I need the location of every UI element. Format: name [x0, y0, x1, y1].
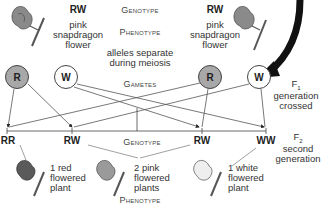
gamete-w-left: W: [54, 65, 78, 89]
white-flower-icon: [193, 158, 225, 198]
f1-label: F1 generation crossed: [268, 79, 324, 111]
gamete-r-left: R: [5, 65, 29, 89]
phenotype-white: 1 white flowered plant: [228, 163, 276, 193]
red-flower-icon: [16, 158, 48, 198]
genotype-label: Genotype: [110, 6, 170, 15]
gamete-r-right: R: [198, 65, 222, 89]
parent-flower-left-icon: [10, 4, 48, 48]
parent-right-phenotype: pink snapdragon flower: [182, 20, 248, 50]
offspring-genotype-rw-1: RW: [62, 136, 82, 147]
parent-left-phenotype: pink snapdragon flower: [45, 20, 111, 50]
phenotype-pink: 2 pink flowered plants: [134, 163, 178, 193]
f2-label: F2 second generation: [270, 132, 325, 164]
parent-right-genotype: RW: [195, 5, 235, 16]
phenotype-red: 1 red flowered plant: [50, 163, 94, 193]
offspring-phenotype-label: Phenotype: [110, 196, 170, 205]
gametes-label: Gametes: [110, 80, 170, 89]
pink-flower-icon: [96, 158, 128, 198]
meiosis-note: alleles separate during meiosis: [88, 48, 192, 68]
phenotype-label: Phenotype: [108, 28, 172, 37]
parent-left-genotype: RW: [58, 5, 98, 16]
offspring-genotype-label: Genotype: [112, 138, 172, 147]
offspring-genotype-rr: RR: [0, 136, 18, 147]
offspring-genotype-rw-2: RW: [192, 136, 212, 147]
